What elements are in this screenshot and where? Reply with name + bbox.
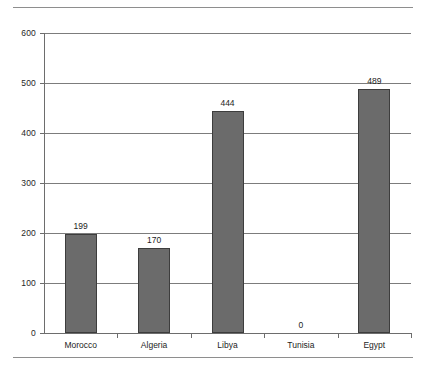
y-tick-label-500: 500: [21, 79, 36, 88]
x-tick-4: [338, 334, 339, 338]
y-tick-label-300: 300: [21, 179, 36, 188]
bar-series: [44, 33, 411, 333]
category-label-morocco: Morocco: [64, 341, 97, 350]
value-label-egypt: 489: [367, 77, 381, 86]
category-label-tunisia: Tunisia: [287, 341, 314, 350]
bar-morocco[interactable]: [65, 234, 97, 334]
y-tick-label-0: 0: [31, 329, 36, 338]
value-label-morocco: 199: [74, 222, 88, 231]
category-label-algeria: Algeria: [141, 341, 167, 350]
y-tick-label-400: 400: [21, 129, 36, 138]
x-tick-2: [191, 334, 192, 338]
bar-libya[interactable]: [212, 111, 244, 333]
y-tick-label-100: 100: [21, 279, 36, 288]
bar-egypt[interactable]: [358, 89, 390, 334]
value-label-tunisia: 0: [299, 321, 304, 330]
x-axis-line: [44, 333, 412, 334]
x-tick-3: [264, 334, 265, 338]
category-label-egypt: Egypt: [363, 341, 385, 350]
x-tick-1: [117, 334, 118, 338]
value-label-algeria: 170: [147, 236, 161, 245]
bar-chart: 0100200300400500600 1991704440489 Morocc…: [0, 0, 426, 369]
y-tick-label-200: 200: [21, 229, 36, 238]
x-tick-5: [411, 334, 412, 338]
y-tick-label-600: 600: [21, 29, 36, 38]
bar-algeria[interactable]: [138, 248, 170, 333]
value-label-libya: 444: [220, 99, 234, 108]
category-label-libya: Libya: [217, 341, 237, 350]
